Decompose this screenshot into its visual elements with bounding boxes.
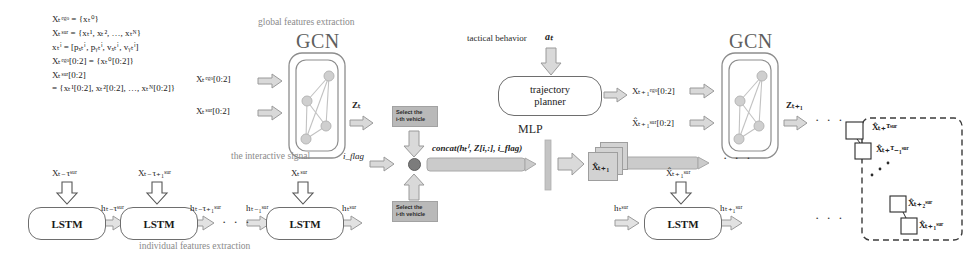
lstm3-input-label: Xₜˢᵘʳ	[291, 168, 307, 178]
concat-operation-node	[408, 158, 421, 171]
arrow-select-bottom-up	[404, 174, 424, 200]
select-box-top-line1: Select the	[396, 109, 434, 116]
trajectory-planner-box[interactable]: trajectory planner	[498, 76, 602, 116]
input-sur-slice-label: Xₜˢᵘʳ[0:2]	[196, 106, 230, 116]
h-label-t-minus-1: hₜ₋₁ˢᵘʳ	[246, 203, 268, 213]
pred-label-2: X̂ₜ₊₂ˢᵘʳ	[908, 198, 932, 208]
mlp-layer-bar	[545, 140, 551, 190]
ellipsis-top-right: · · ·	[815, 112, 845, 128]
arrow-action-into-planner	[541, 48, 561, 75]
concat-vector-bar	[427, 158, 525, 171]
arrow-select-top-down	[404, 131, 424, 157]
h-label-t-right: hₜˢᵘʳ	[614, 203, 628, 213]
global-features-caption: global features extraction	[258, 17, 355, 27]
z-t1-label: Zₜ₊₁	[786, 100, 803, 110]
arrow-planner-to-ego-output	[604, 88, 627, 102]
gcn-right-title: GCN	[729, 30, 773, 53]
h-label-tau-plus-1: hₜ₋τ₊₁ˢᵘʳ	[190, 203, 221, 213]
pred-label-T-minus-1: X̂ₜ₊ᵀ₋₁ˢᵘʳ	[876, 144, 909, 154]
tactical-behavior-caption: tactical behavior	[467, 33, 527, 43]
action-symbol-label: aₜ	[545, 31, 553, 42]
prediction-card-stack: X̂ₜ₊₁	[588, 142, 628, 182]
concat-formula-label: concat(hₜⁱ, Z[i,:], i_flag)	[432, 143, 522, 153]
equation-line-3: xₜⁱ = [pₓₜⁱ, pᵧₜⁱ, vₓₜⁱ, vᵧₜⁱ]	[52, 42, 175, 52]
arrow-sur-next-into-gcn2	[690, 116, 714, 130]
figure-canvas: Xₜᵉᵍᵒ = {xₜ⁰} Xₜˢᵘʳ = {xₜ¹, xₜ², …, xₜᴺ}…	[0, 0, 974, 262]
equation-line-2: Xₜˢᵘʳ = {xₜ¹, xₜ², …, xₜᴺ}	[52, 28, 175, 38]
arrow-sur-into-gcn	[258, 106, 282, 120]
concat-bar-arrowhead	[525, 158, 536, 171]
planner-label-line1: trajectory	[530, 84, 570, 96]
lstm1-input-label: Xₜ₋τˢᵘʳ	[52, 168, 77, 178]
arrow-ego-next-into-gcn2	[690, 84, 714, 98]
prediction-diagonal-dots	[871, 162, 890, 177]
gcn-left-title: GCN	[296, 30, 340, 53]
ellipsis-lstm-chain: · · ·	[222, 214, 252, 230]
select-ith-vehicle-box-bottom[interactable]: Select the i-th vehicle	[392, 201, 438, 222]
arrow-input-lstm1	[57, 182, 77, 204]
lstm-cell-2-label: LSTM	[143, 218, 174, 230]
arrow-input-lstm3	[293, 182, 313, 204]
output-sur-next-label: X̂ₜ₊₁ˢᵘʳ[0:2]	[632, 118, 674, 128]
lstm2-input-label: Xₜ₋τ₊₁ˢᵘʳ	[138, 168, 171, 178]
ellipsis-mid-right: · · ·	[723, 150, 753, 166]
pred-label-1: X̂ₜ₊₁ˢᵘʳ	[919, 220, 943, 230]
equation-line-1: Xₜᵉᵍᵒ = {xₜ⁰}	[52, 14, 175, 24]
individual-features-caption: individual features extraction	[139, 241, 250, 251]
planner-label-line2: planner	[534, 96, 566, 108]
prediction-squares	[846, 122, 917, 234]
interactive-signal-caption: the interactive signal	[231, 151, 310, 161]
lstm-cell-1-label: LSTM	[51, 218, 82, 230]
arrow-gcn2-to-z	[784, 116, 807, 130]
h-label-tau: hₜ₋τˢᵘʳ	[101, 203, 124, 213]
equation-line-4: Xₜᵉᵍᵒ[0:2] = {xₜ⁰[0:2]}	[52, 56, 175, 66]
arrow-input-lstm4	[671, 182, 691, 204]
equation-line-5: Xₜˢᵘʳ[0:2]	[52, 70, 175, 80]
i-flag-label: i_flag	[343, 151, 364, 161]
h-label-t: hₜˢᵘʳ	[342, 203, 356, 213]
h-label-t-plus-1: hₜ₊₁ˢᵘʳ	[720, 203, 742, 213]
select-box-top-line2: i-th vehicle	[396, 116, 434, 123]
arrow-gcn-to-select-top	[350, 116, 373, 130]
card-label: X̂ₜ₊₁	[592, 162, 609, 172]
select-box-bottom-line2: i-th vehicle	[396, 211, 434, 218]
equation-line-6: = {xₜ¹[0:2], xₜ²[0:2], …, xₜᴺ[0:2]}	[52, 83, 175, 93]
lstm-cell-4[interactable]: LSTM	[644, 207, 722, 240]
select-ith-vehicle-box-top[interactable]: Select the i-th vehicle	[392, 106, 438, 127]
lstm-cell-3-label: LSTM	[289, 218, 320, 230]
z-t-label: Zₜ	[352, 100, 361, 110]
arrow-input-lstm2	[147, 182, 167, 204]
ellipsis-bottom-right: · · ·	[815, 210, 845, 226]
mlp-title: MLP	[518, 122, 543, 137]
lstm-cell-4-label: LSTM	[667, 218, 698, 230]
arrow-ego-into-gcn	[258, 74, 282, 88]
select-box-bottom-line1: Select the	[396, 204, 434, 211]
output-ego-next-label: Xₜ₊₁ᵉᵍᵒ[0:2]	[632, 86, 675, 96]
lstm4-input-label: X̂ₜ₊₁ˢᵘʳ	[666, 168, 690, 178]
lstm-cell-1[interactable]: LSTM	[28, 207, 106, 240]
arrow-iflag-into-concat	[370, 157, 394, 171]
arrow-mlp-to-cards	[558, 153, 584, 175]
pred-label-T: X̂ₜ₊ᵀˢᵘʳ	[872, 122, 897, 132]
arrow-h-into-lstm4	[615, 216, 639, 230]
equation-block: Xₜᵉᵍᵒ = {xₜ⁰} Xₜˢᵘʳ = {xₜ¹, xₜ², …, xₜᴺ}…	[52, 14, 175, 93]
lstm-cell-2[interactable]: LSTM	[120, 207, 198, 240]
input-ego-slice-label: Xₜᵉᵍᵒ[0:2]	[196, 74, 231, 84]
lstm-cell-3[interactable]: LSTM	[266, 207, 344, 240]
prediction-bar-arrowhead	[698, 157, 709, 169]
